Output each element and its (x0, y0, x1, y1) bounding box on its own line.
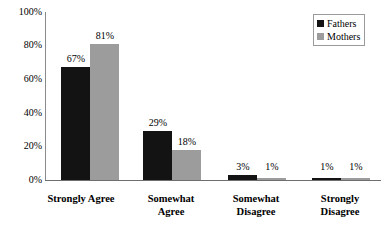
y-tick-label-40: 40% (2, 108, 42, 118)
chart-legend: Fathers Mothers (313, 14, 365, 46)
x-category-label-somewhat-agree: Somewhat Agree (128, 192, 214, 218)
data-label-mothers-somewhat-agree: 18% (165, 137, 209, 147)
bar-fathers-somewhat-disagree (228, 175, 257, 180)
bar-mothers-somewhat-disagree (257, 178, 286, 180)
x-category-line-2: Agree (128, 205, 214, 218)
bar-fathers-strongly-disagree (312, 178, 341, 180)
grouped-bar-chart: 100% 80% 60% 40% 20% 0% 67% 81% 29% 18% … (0, 0, 387, 233)
legend-label-mothers: Mothers (327, 32, 360, 42)
data-label-mothers-somewhat-disagree: 1% (250, 162, 294, 172)
dark-square-swatch-icon (317, 20, 324, 27)
x-category-label-somewhat-disagree: Somewhat Disagree (212, 192, 300, 218)
legend-item-mothers: Mothers (317, 30, 360, 43)
legend-label-fathers: Fathers (327, 19, 356, 29)
bar-mothers-strongly-disagree (341, 178, 370, 180)
y-tick-label-0: 0% (2, 175, 42, 185)
x-category-line-1: Somewhat (212, 192, 300, 205)
y-tick-label-100: 100% (2, 7, 42, 17)
x-category-line-2: Disagree (297, 205, 383, 218)
bar-fathers-strongly-agree (61, 67, 90, 180)
x-category-label-strongly-disagree: Strongly Disagree (297, 192, 383, 218)
x-category-line-1: Somewhat (128, 192, 214, 205)
data-label-mothers-strongly-agree: 81% (83, 31, 127, 41)
y-tick-label-60: 60% (2, 74, 42, 84)
x-axis-baseline (45, 180, 381, 181)
x-category-line-1: Strongly Agree (31, 192, 131, 205)
y-tick-label-20: 20% (2, 141, 42, 151)
y-tick-label-80: 80% (2, 40, 42, 50)
data-label-fathers-somewhat-agree: 29% (136, 118, 180, 128)
gray-square-swatch-icon (317, 33, 324, 40)
x-category-line-2: Disagree (212, 205, 300, 218)
x-category-label-strongly-agree: Strongly Agree (31, 192, 131, 205)
x-category-line-1: Strongly (297, 192, 383, 205)
bar-mothers-strongly-agree (90, 44, 119, 180)
data-label-fathers-strongly-agree: 67% (54, 54, 98, 64)
data-label-mothers-strongly-disagree: 1% (334, 162, 378, 172)
legend-item-fathers: Fathers (317, 17, 360, 30)
bar-mothers-somewhat-agree (172, 150, 201, 180)
